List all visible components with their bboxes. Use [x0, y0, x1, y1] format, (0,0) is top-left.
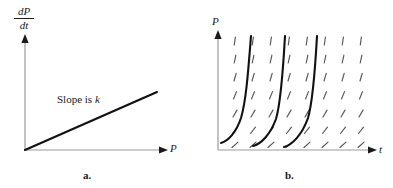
x-axis-label-b: t — [379, 144, 382, 155]
y-axis-arrowhead-a — [21, 34, 28, 43]
solution-curve-1 — [221, 36, 251, 143]
slope-annotation-symbol: k — [95, 93, 100, 105]
x-axis-arrowhead-b — [368, 146, 377, 153]
y-axis-label-denominator-a: dt — [8, 19, 40, 31]
slope-field — [232, 37, 364, 148]
caption-b: b. — [285, 169, 294, 181]
x-axis-arrowhead-a — [159, 146, 168, 153]
slope-annotation: Slope is k — [57, 94, 100, 105]
y-axis-arrowhead-b — [214, 30, 221, 39]
x-axis-label-a: P — [170, 143, 177, 154]
panel-a: dP dt P Slope is k a. — [0, 0, 196, 188]
y-axis-label-numerator-a: dP — [8, 6, 40, 18]
slope-annotation-text: Slope is — [57, 93, 95, 105]
panel-b-plot — [196, 0, 393, 188]
y-axis-label-b: P — [212, 16, 219, 27]
y-axis-label-a: dP dt — [8, 6, 40, 31]
figure-root: dP dt P Slope is k a. — [0, 0, 393, 188]
solution-curves — [221, 36, 317, 147]
solution-curve-2 — [253, 36, 285, 146]
caption-a: a. — [83, 169, 91, 181]
panel-b: P t b. — [196, 0, 393, 188]
